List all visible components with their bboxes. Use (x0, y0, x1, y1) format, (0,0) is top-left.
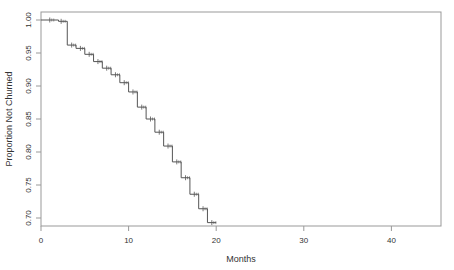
survival-curve (41, 18, 216, 226)
y-tick-label: 0.95 (24, 45, 33, 61)
y-tick-label: 0.85 (24, 111, 33, 127)
y-tick-label: 0.80 (24, 144, 33, 160)
plot-box (41, 12, 441, 226)
step-line (41, 20, 216, 223)
y-axis-label: Proportion Not Churned (4, 71, 14, 166)
x-tick-label: 0 (39, 236, 44, 245)
y-axis: 0.700.750.800.850.900.951.00 (24, 12, 41, 226)
y-tick-label: 0.70 (24, 210, 33, 226)
x-tick-label: 20 (212, 236, 221, 245)
y-tick-label: 1.00 (24, 12, 33, 28)
km-chart: 0.700.750.800.850.900.951.00 010203040 M… (0, 0, 454, 270)
y-tick-label: 0.75 (24, 177, 33, 193)
y-tick-label: 0.90 (24, 78, 33, 94)
x-tick-label: 30 (299, 236, 308, 245)
x-tick-label: 40 (387, 236, 396, 245)
x-tick-label: 10 (124, 236, 133, 245)
x-axis: 010203040 (39, 226, 397, 245)
x-axis-label: Months (226, 254, 256, 264)
